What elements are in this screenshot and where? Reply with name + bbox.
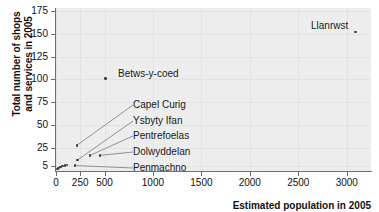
data-point <box>66 164 68 166</box>
y-axis-tick <box>51 102 56 103</box>
y-axis-tick-label: 75 <box>8 97 48 107</box>
x-axis-tick <box>80 172 81 176</box>
leader-lines <box>56 8 371 171</box>
x-axis-line <box>55 171 372 172</box>
point-label-ysbyty-ifan: Ysbyty Ifan <box>133 116 182 126</box>
x-axis-tick <box>56 172 57 176</box>
gridline-vertical <box>298 8 299 171</box>
x-axis-tick-label: 3000 <box>322 178 372 188</box>
gridline-horizontal <box>56 148 371 149</box>
x-axis-tick <box>347 172 348 176</box>
gridline-horizontal <box>56 125 371 126</box>
y-axis-tick <box>51 57 56 58</box>
scatter-chart: Total number of shops and services in 20… <box>0 0 379 212</box>
gridline-vertical <box>201 8 202 171</box>
x-axis-tick <box>201 172 202 176</box>
y-axis-tick-label: 5 <box>8 161 48 171</box>
y-axis-tick <box>51 11 56 12</box>
data-point <box>104 77 107 80</box>
point-label-betws-y-coed: Betws-y-coed <box>118 69 179 79</box>
y-axis-title-line2: and services in 2005 <box>23 0 35 139</box>
gridline-horizontal <box>56 166 371 167</box>
y-axis-tick <box>51 34 56 35</box>
y-axis-title-line1: Total number of shops <box>11 0 23 139</box>
data-point <box>354 31 357 34</box>
y-axis-tick-label: 50 <box>8 120 48 130</box>
y-axis-tick-label: 175 <box>8 6 48 16</box>
gridline-horizontal <box>56 11 371 12</box>
data-point <box>76 159 79 162</box>
y-axis-tick-label: 100 <box>8 74 48 84</box>
point-label-llanrwst: Llanrwst <box>311 21 348 31</box>
gridline-horizontal <box>56 102 371 103</box>
gridline-vertical <box>250 8 251 171</box>
x-axis-tick-label: 1000 <box>128 178 178 188</box>
leader-line <box>90 136 133 155</box>
x-axis-tick <box>105 172 106 176</box>
data-point <box>99 154 102 157</box>
x-axis-tick <box>250 172 251 176</box>
y-axis-tick-label: 25 <box>8 143 48 153</box>
x-axis-tick-label: 500 <box>80 178 130 188</box>
point-label-capel-curig: Capel Curig <box>133 100 186 110</box>
y-axis-tick <box>51 125 56 126</box>
y-axis-tick <box>51 79 56 80</box>
y-axis-title: Total number of shops and services in 20… <box>11 0 35 139</box>
data-point <box>74 164 77 167</box>
data-point <box>76 144 79 147</box>
gridline-vertical <box>347 8 348 171</box>
y-axis-tick-label: 125 <box>8 52 48 62</box>
x-axis-title: Estimated population in 2005 <box>0 200 377 211</box>
gridline-horizontal <box>56 79 371 80</box>
gridline-vertical <box>56 8 57 171</box>
gridline-horizontal <box>56 34 371 35</box>
data-point <box>89 154 92 157</box>
y-axis-tick <box>51 166 56 167</box>
x-axis-tick-label: 2000 <box>225 178 275 188</box>
plot-area <box>56 8 371 171</box>
y-axis-tick <box>51 148 56 149</box>
y-axis-tick-label: 150 <box>8 29 48 39</box>
gridline-horizontal <box>56 57 371 58</box>
x-axis-tick <box>298 172 299 176</box>
point-label-penmachno: Penmachno <box>133 163 186 173</box>
point-label-pentrefoelas: Pentrefoelas <box>133 131 189 141</box>
x-axis-tick-label: 1500 <box>176 178 226 188</box>
gridline-vertical <box>80 8 81 171</box>
point-label-dolwyddelan: Dolwyddelan <box>133 147 190 157</box>
gridline-vertical <box>105 8 106 171</box>
x-axis-tick-label: 2500 <box>273 178 323 188</box>
